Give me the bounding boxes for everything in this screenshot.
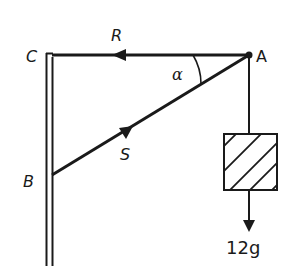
- load-arrow: [243, 190, 255, 232]
- angle-arc: [193, 55, 201, 84]
- force-diagram: C A B R S α 12g: [0, 0, 293, 277]
- label-a: A: [256, 47, 267, 66]
- load-label: 12g: [226, 237, 260, 258]
- arrow-left-icon: [112, 49, 126, 61]
- force-label-r: R: [111, 26, 122, 45]
- strut-ba: [52, 55, 249, 175]
- tie-ca: [52, 49, 249, 61]
- force-label-s: S: [120, 145, 130, 164]
- angle-label-alpha: α: [172, 65, 183, 84]
- wall: [46, 53, 53, 266]
- arrow-down-icon: [243, 220, 255, 232]
- label-b: B: [23, 172, 34, 191]
- label-c: C: [26, 47, 38, 66]
- load-box: [210, 130, 293, 200]
